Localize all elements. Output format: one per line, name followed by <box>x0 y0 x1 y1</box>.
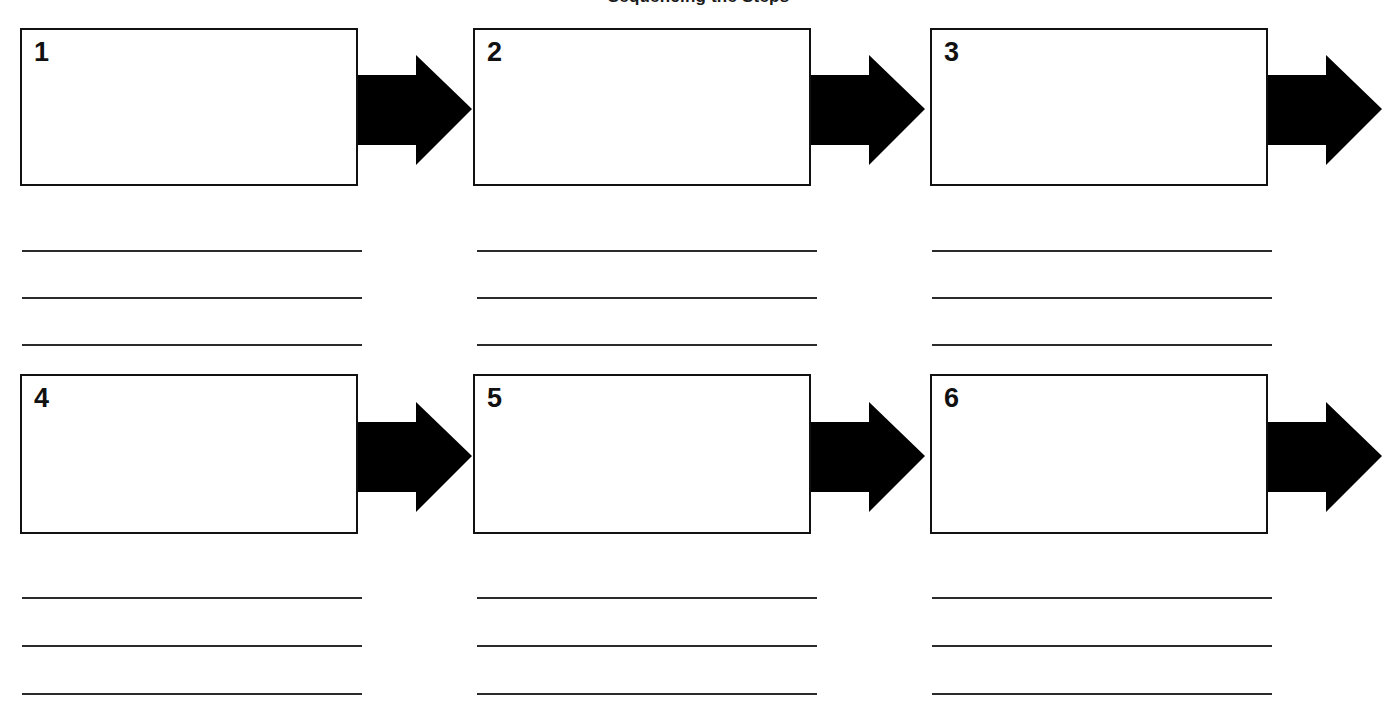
writing-line[interactable] <box>477 645 817 647</box>
step-box-4[interactable]: 4 <box>20 374 358 534</box>
writing-line[interactable] <box>22 645 362 647</box>
writing-line[interactable] <box>932 693 1272 695</box>
clipped-heading-text: Sequencing the Steps <box>0 0 1397 7</box>
writing-line[interactable] <box>932 597 1272 599</box>
step-number-4: 4 <box>34 385 49 412</box>
writing-line[interactable] <box>477 250 817 252</box>
writing-line[interactable] <box>22 597 362 599</box>
step-number-5: 5 <box>487 385 502 412</box>
writing-line[interactable] <box>22 250 362 252</box>
right-block-arrow-icon <box>1268 402 1382 512</box>
right-block-arrow-icon <box>811 402 925 512</box>
step-box-5[interactable]: 5 <box>473 374 811 534</box>
right-block-arrow-icon <box>1268 55 1382 165</box>
writing-line[interactable] <box>477 297 817 299</box>
step-number-2: 2 <box>487 39 502 66</box>
right-block-arrow-icon <box>358 55 472 165</box>
clipped-heading-strip: Sequencing the Steps <box>0 0 1397 9</box>
writing-line[interactable] <box>932 250 1272 252</box>
writing-line[interactable] <box>22 297 362 299</box>
step-box-1[interactable]: 1 <box>20 28 358 186</box>
step-box-2[interactable]: 2 <box>473 28 811 186</box>
right-block-arrow-icon <box>811 55 925 165</box>
step-number-6: 6 <box>944 385 959 412</box>
writing-line[interactable] <box>932 344 1272 346</box>
writing-line[interactable] <box>477 344 817 346</box>
writing-line[interactable] <box>477 597 817 599</box>
step-box-3[interactable]: 3 <box>930 28 1268 186</box>
writing-line[interactable] <box>22 344 362 346</box>
writing-line[interactable] <box>477 693 817 695</box>
right-block-arrow-icon <box>358 402 472 512</box>
step-number-1: 1 <box>34 39 49 66</box>
step-number-3: 3 <box>944 39 959 66</box>
worksheet-page: Sequencing the Steps 1 2 3 <box>0 0 1397 703</box>
writing-line[interactable] <box>932 297 1272 299</box>
step-box-6[interactable]: 6 <box>930 374 1268 534</box>
writing-line[interactable] <box>932 645 1272 647</box>
writing-line[interactable] <box>22 693 362 695</box>
